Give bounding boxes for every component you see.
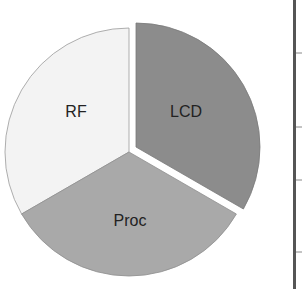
label-lcd: LCD <box>170 103 202 120</box>
label-rf: RF <box>65 103 87 120</box>
pie-chart: RF LCD Proc <box>0 0 302 289</box>
label-proc: Proc <box>114 212 147 229</box>
